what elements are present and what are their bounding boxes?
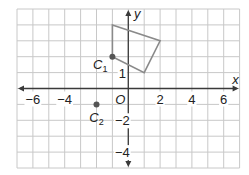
point-label: C2 xyxy=(89,110,103,127)
coordinate-plane: xyO−6−42461−2−4C1C2 xyxy=(0,0,249,175)
x-axis-label: x xyxy=(231,72,239,87)
y-tick-label: 1 xyxy=(119,66,126,81)
x-tick-label: −6 xyxy=(25,92,40,107)
point-c1 xyxy=(109,54,115,60)
x-tick-label: 6 xyxy=(220,92,227,107)
point-c2 xyxy=(94,101,100,107)
arrow-down-icon xyxy=(125,161,131,167)
x-tick-label: 2 xyxy=(156,92,163,107)
y-tick-label: −2 xyxy=(115,113,130,128)
y-axis-label: y xyxy=(133,6,142,21)
x-tick-label: −4 xyxy=(57,92,72,107)
arrow-left-icon xyxy=(18,86,24,92)
point-label: C1 xyxy=(93,57,107,74)
arrow-up-icon xyxy=(125,10,131,16)
x-tick-label: 4 xyxy=(188,92,195,107)
origin-label: O xyxy=(115,92,125,107)
y-tick-label: −4 xyxy=(115,145,130,160)
